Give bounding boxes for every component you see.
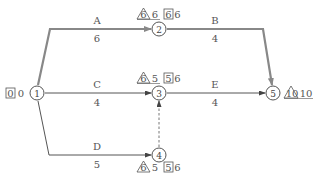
node-5-triangle-value: 10 (286, 88, 299, 99)
node-1-earliest-value: 0 (7, 88, 13, 99)
activity-b-duration: 4 (212, 33, 218, 44)
node-2-box-left: 6 (165, 9, 171, 20)
activity-e-duration: 4 (212, 97, 218, 108)
node-3-triangle-after: 5 (152, 73, 158, 84)
node-2-number: 2 (156, 25, 162, 35)
activity-e-name: E (211, 79, 218, 90)
activity-a-duration: 6 (94, 33, 100, 44)
node-2: 2 6 6 6 6 (137, 8, 181, 36)
node-4: 4 6 5 5 6 (137, 148, 181, 173)
node-3-triangle-value: 6 (140, 73, 146, 84)
node-3-box-right: 6 (174, 73, 180, 84)
node-4-box-left: 5 (165, 162, 171, 173)
activity-a: A 6 (38, 15, 151, 85)
activity-d: D 5 (38, 101, 151, 170)
node-3: 3 6 5 5 6 (137, 72, 181, 100)
node-2-triangle-value: 6 (140, 9, 146, 20)
activity-d-duration: 5 (94, 159, 100, 170)
node-1-number: 1 (34, 89, 40, 99)
node-2-box-right: 6 (174, 9, 180, 20)
activity-c-duration: 4 (94, 97, 100, 108)
node-4-box-right: 6 (174, 162, 180, 173)
activity-d-name: D (93, 141, 101, 152)
node-4-triangle-after: 5 (152, 162, 158, 173)
activity-c-name: C (93, 79, 101, 90)
node-3-number: 3 (156, 89, 162, 99)
network-diagram: A 6 B 4 C 4 E 4 D 5 1 0 0 2 6 (0, 0, 316, 175)
node-5-triangle-after: 10 (300, 88, 313, 99)
node-1-latest-value: 0 (18, 88, 24, 99)
activity-e: E 4 (167, 79, 265, 108)
node-5: 5 10 10 (266, 86, 313, 100)
activity-a-name: A (92, 15, 101, 26)
node-1: 1 0 0 (6, 86, 44, 100)
activity-b: B 4 (167, 15, 272, 85)
activity-b-arrow (167, 29, 272, 85)
node-5-number: 5 (270, 89, 276, 99)
node-4-triangle-value: 6 (140, 162, 146, 173)
node-4-number: 4 (156, 151, 162, 161)
activity-c: C 4 (45, 79, 151, 108)
node-2-triangle-after: 6 (152, 9, 158, 20)
node-3-box-left: 5 (165, 73, 171, 84)
activity-b-name: B (211, 15, 218, 26)
